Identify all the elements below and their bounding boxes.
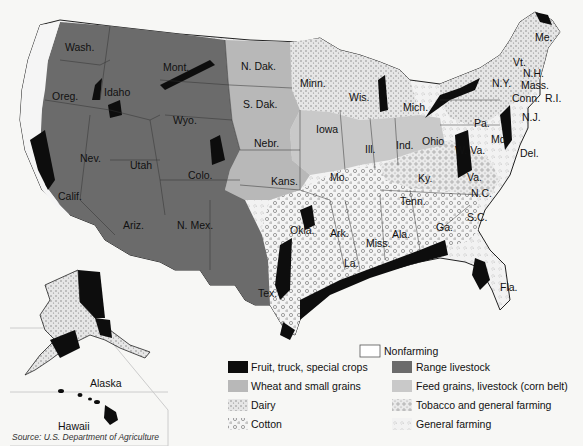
legend-label: Tobacco and general farming [416, 399, 551, 411]
swatch-tobacco [392, 399, 412, 411]
state-label: Md. [491, 134, 509, 145]
swatch-corn-belt [392, 380, 412, 392]
state-label: Colo. [188, 170, 213, 181]
state-label: S.C. [467, 212, 487, 223]
state-label: N.H. [523, 68, 544, 79]
swatch-range-livestock [392, 361, 412, 373]
state-label: Wyo. [173, 115, 197, 126]
state-label: R.I. [545, 93, 561, 104]
state-label: N.Y. [492, 78, 511, 89]
state-label: S. Dak. [243, 99, 277, 110]
legend-item-dairy: Dairy [251, 399, 276, 411]
state-label: Nebr. [254, 138, 279, 149]
legend-label: Wheat and small grains [251, 380, 361, 392]
swatch-fruit-truck [228, 361, 248, 373]
state-label: Tex. [258, 288, 277, 299]
legend-item-cotton: Cotton [251, 418, 282, 430]
legend-item-nonfarming: Nonfarming [384, 345, 438, 357]
legend-item-wheat: Wheat and small grains [251, 380, 361, 392]
state-label: Okla. [290, 225, 315, 236]
legend-item-corn-belt: Feed grains, livestock (corn belt) [416, 380, 568, 392]
state-label: Ala. [392, 229, 410, 240]
state-label: Ohio [422, 136, 444, 147]
state-label: W. Va. [455, 145, 485, 156]
swatch-nonfarming [360, 345, 380, 357]
legend-item-fruit-truck: Fruit, truck, special crops [251, 361, 368, 373]
legend-label: Range livestock [416, 361, 490, 373]
state-label: Ariz. [123, 220, 144, 231]
swatch-cotton [228, 418, 248, 430]
legend-item-range-livestock: Range livestock [416, 361, 490, 373]
state-label: Me. [535, 32, 553, 43]
legend-label: Dairy [251, 399, 276, 411]
state-label: Nev. [80, 153, 101, 164]
legend-label: Feed grains, livestock (corn belt) [416, 380, 568, 392]
state-label: Fla. [500, 282, 518, 293]
state-label: Mass. [521, 80, 549, 91]
alaska-shape [25, 270, 150, 375]
source-credit: Source: U.S. Department of Agriculture [12, 432, 159, 442]
legend-item-general-farming: General farming [416, 418, 491, 430]
state-label: Idaho [104, 87, 130, 98]
state-label: N. Mex. [177, 220, 213, 231]
state-label: Wash. [65, 42, 94, 53]
state-label: Pa. [474, 118, 490, 129]
state-label: Calif. [58, 191, 82, 202]
state-label: N.J. [522, 112, 541, 123]
state-label: Mont. [163, 62, 189, 73]
swatch-general-farming [392, 418, 412, 430]
state-label: Minn. [300, 78, 326, 89]
state-label: Ind. [396, 140, 414, 151]
state-label: N.C. [471, 188, 492, 199]
state-label: Oreg. [52, 91, 78, 102]
alaska-label: Alaska [90, 377, 122, 389]
legend-item-tobacco: Tobacco and general farming [416, 399, 551, 411]
state-label: Iowa [316, 124, 338, 135]
state-label: Tenn. [400, 196, 426, 207]
state-label: Ga. [436, 222, 453, 233]
state-label: Utah [130, 160, 152, 171]
state-label: Del. [520, 148, 539, 159]
state-label: Ky. [418, 173, 432, 184]
state-label: Mich. [403, 102, 428, 113]
hawaii-label: Hawaii [58, 420, 90, 432]
state-label: Vt. [513, 57, 526, 68]
state-label: Miss. [366, 238, 391, 249]
legend-label: Cotton [251, 418, 282, 430]
swatch-dairy [228, 399, 248, 411]
legend-label: Nonfarming [384, 345, 438, 357]
state-label: Wis. [349, 92, 369, 103]
state-label: Va. [467, 172, 482, 183]
state-label: La. [344, 258, 359, 269]
legend-label: General farming [416, 418, 491, 430]
state-label: Ill. [365, 144, 376, 155]
swatch-wheat [228, 380, 248, 392]
state-label: Mo. [330, 172, 348, 183]
state-label: Kans. [271, 176, 298, 187]
state-label: Conn. [512, 93, 540, 104]
legend-label: Fruit, truck, special crops [251, 361, 368, 373]
state-label: Ark. [330, 228, 349, 239]
state-label: N. Dak. [241, 61, 276, 72]
